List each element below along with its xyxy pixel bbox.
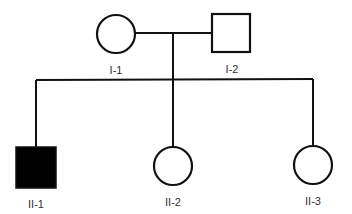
- label-i2: I-2: [226, 63, 239, 75]
- individual-i1-female-unaffected: [97, 15, 135, 53]
- label-ii1: II-1: [28, 198, 44, 210]
- sibship-line: [36, 79, 313, 80]
- label-ii2: II-2: [165, 196, 181, 208]
- label-ii3: II-3: [305, 195, 321, 207]
- individual-ii3-female-unaffected: [294, 146, 332, 184]
- label-i1: I-1: [110, 64, 123, 76]
- individual-i2-male-unaffected: [212, 14, 250, 52]
- pedigree-diagram: I-1 I-2 II-1 II-2 II-3: [0, 0, 352, 214]
- individual-ii1-male-affected: [16, 147, 56, 188]
- individual-ii2-female-unaffected: [154, 147, 192, 185]
